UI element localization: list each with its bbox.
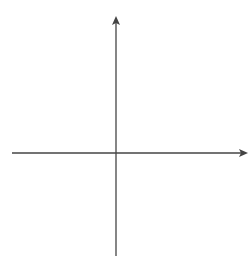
coordinate-plane	[0, 0, 250, 256]
